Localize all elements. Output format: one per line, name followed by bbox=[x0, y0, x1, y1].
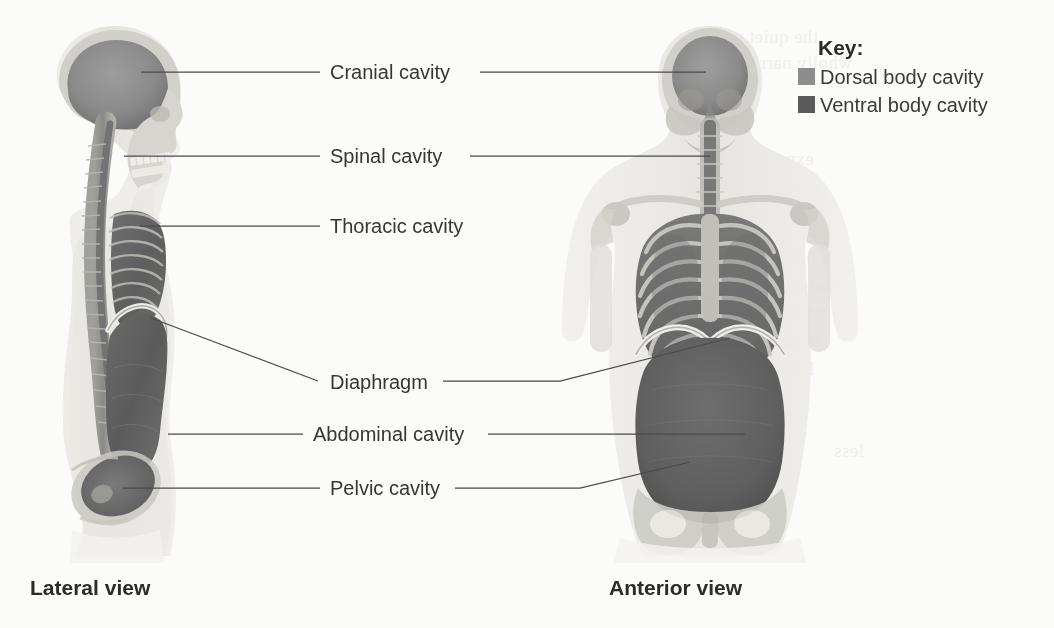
legend-item-ventral: Ventral body cavity bbox=[798, 91, 988, 118]
legend-swatch-dorsal bbox=[798, 68, 815, 85]
legend-key: Key: Dorsal body cavity Ventral body cav… bbox=[798, 36, 988, 119]
label-spinal-cavity: Spinal cavity bbox=[330, 146, 442, 166]
lateral-view-illustration bbox=[10, 18, 310, 563]
caption-lateral-view: Lateral view bbox=[30, 576, 150, 600]
abdominal-cavity-shading bbox=[635, 338, 784, 524]
legend-item-dorsal: Dorsal body cavity bbox=[798, 63, 988, 90]
label-pelvic-cavity: Pelvic cavity bbox=[330, 478, 440, 498]
legend-swatch-ventral bbox=[798, 96, 815, 113]
body-cavities-figure: the quiet problemwholly narrowexperience… bbox=[0, 0, 1054, 628]
legend-label-dorsal: Dorsal body cavity bbox=[820, 67, 983, 87]
label-cranial-cavity: Cranial cavity bbox=[330, 62, 450, 82]
label-abdominal-cavity: Abdominal cavity bbox=[313, 424, 464, 444]
anterior-abdominal-cavity bbox=[635, 338, 784, 524]
label-diaphragm: Diaphragm bbox=[330, 372, 428, 392]
legend-label-ventral: Ventral body cavity bbox=[820, 95, 988, 115]
label-thoracic-cavity: Thoracic cavity bbox=[330, 216, 463, 236]
caption-anterior-view: Anterior view bbox=[609, 576, 742, 600]
legend-title: Key: bbox=[818, 36, 988, 60]
